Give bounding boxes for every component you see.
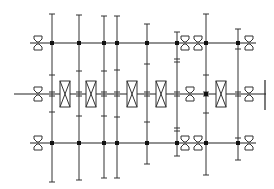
mesh-node-icon: [102, 141, 106, 145]
mesh-node-icon: [236, 141, 240, 145]
clutch-icon: [127, 81, 137, 107]
clutch-icon: [216, 81, 226, 107]
mesh-node-icon: [204, 141, 208, 145]
mesh-node-icon: [145, 141, 149, 145]
mesh-node-icon: [175, 141, 179, 145]
mesh-node-icon: [102, 41, 106, 45]
mesh-node-icon: [77, 41, 81, 45]
clutch-icon: [86, 81, 96, 107]
mesh-node-icon: [50, 41, 54, 45]
mesh-node-icon: [77, 141, 81, 145]
gear-line: [76, 15, 82, 180]
mesh-node-icon: [175, 41, 179, 45]
mesh-node-icon: [204, 41, 208, 45]
clutch-icon: [156, 81, 166, 107]
mesh-node-icon: [115, 141, 119, 145]
mesh-node-icon: [50, 141, 54, 145]
gear-line: [49, 14, 55, 182]
gear-lines: [49, 14, 241, 182]
mesh-node-icon: [204, 92, 208, 96]
transmission-diagram: [0, 0, 274, 189]
gear-line: [114, 16, 120, 178]
mesh-node-icon: [145, 41, 149, 45]
mesh-node-icon: [115, 41, 119, 45]
clutch-icon: [60, 81, 70, 107]
gear-line: [101, 16, 107, 178]
mesh-node-icon: [236, 41, 240, 45]
